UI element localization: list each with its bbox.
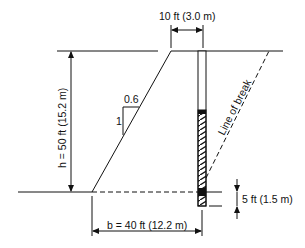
slope-indicator: [123, 107, 139, 135]
crest-width-label: 10 ft (3.0 m): [159, 10, 216, 22]
height-label: h = 50 ft (15.2 m): [56, 88, 68, 168]
line-of-break: [206, 51, 269, 178]
embedment-label: 5 ft (1.5 m): [242, 193, 293, 205]
line-of-break-label: Line of break: [215, 77, 254, 137]
slope-vertical-label: 1: [116, 115, 122, 127]
dam-diagram: Line of break 0.6 1 10 ft (3.0 m) h = 50…: [0, 0, 305, 248]
crest-width-dimension: [171, 25, 203, 48]
core-wall: [198, 51, 206, 206]
slope-horizontal-label: 0.6: [124, 93, 139, 105]
base-label: b = 40 ft (12.2 m): [107, 219, 187, 231]
upstream-face: [92, 51, 171, 192]
